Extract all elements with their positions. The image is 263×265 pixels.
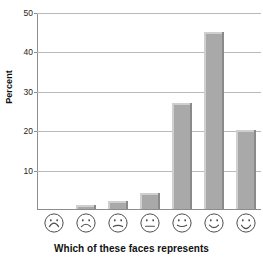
y-tick-mark-10 <box>34 171 37 172</box>
y-tick-label-30: 30 <box>24 88 33 97</box>
x-axis-line <box>37 209 261 210</box>
bar-top-highlight <box>108 201 128 203</box>
bar-slot-slightly-happy-face <box>172 13 192 209</box>
bar-series <box>38 13 261 209</box>
y-tick-label-50: 50 <box>24 9 33 18</box>
sad-face-icon <box>75 212 97 234</box>
bar-slot-very-happy-face <box>236 13 256 209</box>
bar-slot-very-sad-face <box>44 13 64 209</box>
bar-top-highlight <box>236 130 256 132</box>
bar-top-highlight <box>204 32 224 34</box>
bar-top-highlight <box>140 193 160 195</box>
happy-face-icon <box>203 212 225 234</box>
bar-very-happy-face[interactable] <box>236 130 256 209</box>
bar-slightly-sad-face[interactable] <box>108 201 128 209</box>
y-tick-mark-40 <box>34 52 37 53</box>
y-tick-label-40: 40 <box>24 48 33 57</box>
bar-happy-face[interactable] <box>204 32 224 209</box>
x-axis-title: Which of these faces represents <box>0 243 263 254</box>
x-axis-face-ticks <box>38 212 262 236</box>
neutral-face-icon <box>139 212 161 234</box>
bar-slot-neutral-face <box>140 13 160 209</box>
bar-slot-slightly-sad-face <box>108 13 128 209</box>
y-tick-label-20: 20 <box>24 127 33 136</box>
y-axis-title: Percent <box>4 55 14 119</box>
bar-top-highlight <box>76 205 96 207</box>
bar-slot-happy-face <box>204 13 224 209</box>
bar-slightly-happy-face[interactable] <box>172 103 192 209</box>
bar-chart-figure: Percent 1020304050 Which of these faces … <box>0 0 263 265</box>
bar-top-highlight <box>172 103 192 105</box>
y-tick-mark-20 <box>34 131 37 132</box>
y-tick-mark-50 <box>34 13 37 14</box>
y-tick-mark-30 <box>34 92 37 93</box>
y-tick-label-10: 10 <box>24 166 33 175</box>
very-sad-face-icon <box>43 212 65 234</box>
very-happy-face-icon <box>235 212 257 234</box>
bar-neutral-face[interactable] <box>140 193 160 209</box>
slightly-happy-face-icon <box>171 212 193 234</box>
bar-sad-face[interactable] <box>76 205 96 209</box>
slightly-sad-face-icon <box>107 212 129 234</box>
bar-slot-sad-face <box>76 13 96 209</box>
plot-area: 1020304050 <box>37 13 261 210</box>
